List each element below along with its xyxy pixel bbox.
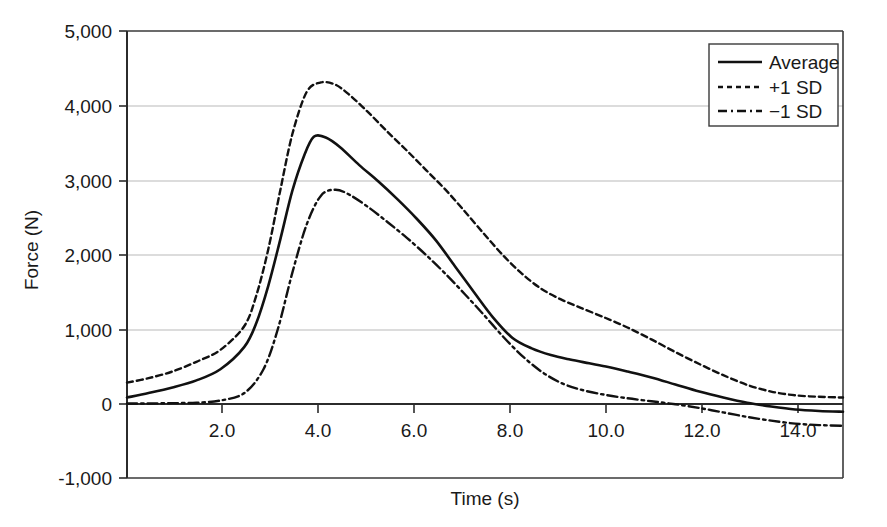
y-tick-label-3000: 3,000 bbox=[64, 171, 112, 192]
x-tick-label-10: 10.0 bbox=[588, 420, 625, 441]
x-tick-label-6: 6.0 bbox=[401, 420, 427, 441]
x-tick-label-2: 2.0 bbox=[209, 420, 235, 441]
x-tick-labels: 2.0 4.0 6.0 8.0 10.0 12.0 14.0 bbox=[209, 420, 817, 441]
force-time-chart: 5,000 4,000 3,000 2,000 1,000 0 -1,000 2… bbox=[0, 0, 887, 527]
legend-label-minus-1-sd: −1 SD bbox=[769, 101, 822, 122]
x-tick-marks bbox=[222, 404, 798, 413]
series-group bbox=[127, 82, 843, 426]
y-tick-marks bbox=[119, 31, 127, 478]
legend-label-plus-1-sd: +1 SD bbox=[769, 77, 822, 98]
legend-label-average: Average bbox=[769, 52, 839, 73]
chart-legend[interactable]: Average +1 SD −1 SD bbox=[709, 44, 839, 126]
y-tick-label-1000: 1,000 bbox=[64, 320, 112, 341]
x-tick-label-12: 12.0 bbox=[684, 420, 721, 441]
y-axis-title: Force (N) bbox=[21, 210, 42, 290]
y-tick-labels: 5,000 4,000 3,000 2,000 1,000 0 -1,000 bbox=[58, 21, 112, 489]
y-tick-label-4000: 4,000 bbox=[64, 96, 112, 117]
y-tick-label-5000: 5,000 bbox=[64, 21, 112, 42]
y-tick-label-2000: 2,000 bbox=[64, 245, 112, 266]
series-line-average bbox=[127, 135, 843, 411]
gridlines bbox=[127, 106, 843, 330]
chart-page: 5,000 4,000 3,000 2,000 1,000 0 -1,000 2… bbox=[0, 0, 887, 527]
series-line-plus-1-sd bbox=[127, 82, 843, 398]
x-tick-label-8: 8.0 bbox=[497, 420, 523, 441]
x-axis-title: Time (s) bbox=[451, 488, 520, 509]
x-tick-label-4: 4.0 bbox=[305, 420, 331, 441]
y-tick-label-0: 0 bbox=[101, 394, 112, 415]
y-tick-label-neg1000: -1,000 bbox=[58, 468, 112, 489]
